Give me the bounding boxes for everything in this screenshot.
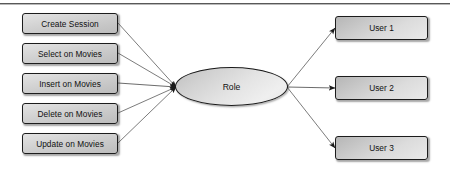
user-node-user-3[interactable]: User 3 bbox=[335, 136, 428, 160]
edges-permissions-to-role bbox=[118, 23, 176, 143]
permission-node-label: Insert on Movies bbox=[39, 79, 101, 89]
permission-node-delete-on-movies[interactable]: Delete on Movies bbox=[22, 103, 118, 124]
permission-node-label: Select on Movies bbox=[38, 49, 102, 59]
role-node[interactable]: Role bbox=[175, 67, 288, 106]
permission-node-select-on-movies[interactable]: Select on Movies bbox=[22, 43, 118, 64]
user-node-user-2[interactable]: User 2 bbox=[335, 76, 428, 100]
permission-node-insert-on-movies[interactable]: Insert on Movies bbox=[22, 73, 118, 94]
edges-role-to-users bbox=[287, 28, 335, 148]
permission-node-label: Delete on Movies bbox=[38, 109, 103, 119]
user-node-label: User 1 bbox=[369, 23, 394, 33]
permission-node-create-session[interactable]: Create Session bbox=[22, 13, 118, 34]
user-node-label: User 2 bbox=[369, 83, 394, 93]
permission-node-label: Create Session bbox=[41, 19, 98, 29]
user-node-label: User 3 bbox=[369, 143, 394, 153]
permission-node-label: Update on Movies bbox=[36, 139, 104, 149]
role-node-label: Role bbox=[223, 82, 241, 92]
permission-node-update-on-movies[interactable]: Update on Movies bbox=[22, 133, 118, 154]
user-node-user-1[interactable]: User 1 bbox=[335, 16, 428, 40]
diagram-canvas: Create Session Select on Movies Insert o… bbox=[0, 0, 450, 178]
